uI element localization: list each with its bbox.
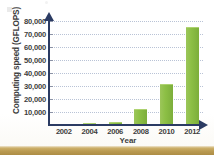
- chart-screenshot: Computing speed (GFLOPS) 10,00020,00030,…: [0, 0, 214, 155]
- y-axis-tick-label: 60,000: [10, 43, 46, 52]
- bar-2012[interactable]: [186, 27, 199, 125]
- gridline: [51, 73, 203, 74]
- bar-top-highlight: [186, 27, 199, 28]
- y-axis-tick-mark: [50, 21, 53, 22]
- x-axis-tick-label-2002: 2002: [51, 127, 77, 136]
- x-axis-line: [48, 124, 200, 126]
- bar-top-highlight: [134, 109, 147, 110]
- gridline: [51, 21, 203, 22]
- y-axis-tick-mark: [50, 112, 53, 113]
- y-axis-tick-label: 50,000: [10, 56, 46, 65]
- y-axis-tick-label: 70,000: [10, 30, 46, 39]
- bar-2008[interactable]: [134, 109, 147, 125]
- y-axis-tick-mark: [50, 60, 53, 61]
- bottom-band: [0, 146, 214, 155]
- y-axis-tick-mark: [50, 73, 53, 74]
- x-axis-tick-label-2008: 2008: [128, 127, 154, 136]
- y-axis-tick-label: 20,000: [10, 95, 46, 104]
- bar-top-highlight: [160, 84, 173, 85]
- x-axis-title: Year: [51, 136, 205, 145]
- x-axis-tick-label-2004: 2004: [77, 127, 103, 136]
- bar-chart: Computing speed (GFLOPS) 10,00020,00030,…: [0, 0, 214, 155]
- gridline: [51, 47, 203, 48]
- y-axis-tick-mark: [50, 34, 53, 35]
- gridline: [51, 99, 203, 100]
- gridline: [51, 112, 203, 113]
- x-axis-tick-label-2012: 2012: [179, 127, 205, 136]
- gridline: [51, 86, 203, 87]
- y-axis-tick-label: 40,000: [10, 69, 46, 78]
- gridline: [51, 60, 203, 61]
- gridline: [51, 34, 203, 35]
- plot-area: [51, 16, 205, 125]
- bar-2010[interactable]: [160, 84, 173, 125]
- y-axis-tick-label: 10,000: [10, 108, 46, 117]
- x-axis-tick-label-2010: 2010: [154, 127, 180, 136]
- y-axis-tick-labels: 10,00020,00030,00040,00050,00060,00070,0…: [8, 0, 46, 155]
- x-axis-tick-label-2006: 2006: [102, 127, 128, 136]
- y-axis-tick-mark: [50, 86, 53, 87]
- bar-top-highlight: [109, 122, 122, 123]
- y-axis-tick-label: 30,000: [10, 82, 46, 91]
- y-axis-tick-label: 80,000: [10, 17, 46, 26]
- y-axis-tick-mark: [50, 99, 53, 100]
- y-axis-tick-mark: [50, 47, 53, 48]
